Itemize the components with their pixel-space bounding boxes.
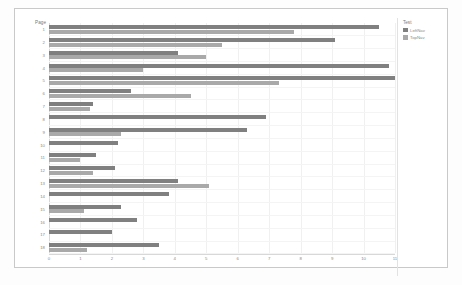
legend-swatch-icon [403, 28, 408, 33]
plot-area: 123456789101112131415161718 012345678910… [49, 23, 395, 253]
bar-leftnav[interactable] [49, 25, 379, 29]
bar-leftnav[interactable] [49, 102, 93, 106]
bar-leftnav[interactable] [49, 38, 335, 42]
x-tick-label: 4 [170, 256, 180, 261]
x-tick-label: 3 [138, 256, 148, 261]
bar-topnav[interactable] [49, 209, 84, 213]
y-tick-label: 15 [29, 207, 45, 212]
bar-topnav[interactable] [49, 30, 294, 34]
y-tick-label: 10 [29, 143, 45, 148]
y-tick-label: 13 [29, 181, 45, 186]
y-tick-label: 16 [29, 220, 45, 225]
bar-row: 8 [49, 113, 395, 126]
x-tick-label: 7 [264, 256, 274, 261]
x-tick-label: 9 [327, 256, 337, 261]
x-tick-label: 10 [359, 256, 369, 261]
bar-row: 4 [49, 62, 395, 75]
bar-topnav[interactable] [49, 248, 87, 252]
bar-topnav[interactable] [49, 43, 222, 47]
y-tick-label: 12 [29, 168, 45, 173]
bar-rows: 123456789101112131415161718 [49, 23, 395, 253]
legend-divider [397, 18, 398, 276]
bar-row: 12 [49, 164, 395, 177]
x-tick-label: 2 [107, 256, 117, 261]
bar-leftnav[interactable] [49, 218, 137, 222]
bar-topnav[interactable] [49, 55, 206, 59]
y-tick-label: 5 [29, 78, 45, 83]
y-tick-label: 18 [29, 245, 45, 250]
bar-leftnav[interactable] [49, 141, 118, 145]
bar-row: 2 [49, 36, 395, 49]
bar-row: 18 [49, 241, 395, 254]
legend-item-label: LeftNav [410, 28, 425, 33]
legend-title: Test [403, 20, 455, 25]
bar-leftnav[interactable] [49, 205, 121, 209]
screenshot-root: Page 123456789101112131415161718 0123456… [0, 0, 462, 285]
bar-row: 9 [49, 126, 395, 139]
bar-topnav[interactable] [49, 81, 279, 85]
bar-row: 1 [49, 23, 395, 36]
bar-row: 3 [49, 49, 395, 62]
y-tick-label: 1 [29, 27, 45, 32]
bar-leftnav[interactable] [49, 192, 169, 196]
y-tick-label: 2 [29, 40, 45, 45]
legend-item[interactable]: LeftNav [403, 28, 455, 33]
bar-topnav[interactable] [49, 107, 90, 111]
y-tick-label: 8 [29, 117, 45, 122]
bar-row: 14 [49, 190, 395, 203]
legend-swatch-icon [403, 35, 408, 40]
bar-row: 16 [49, 216, 395, 229]
bar-leftnav[interactable] [49, 153, 96, 157]
bar-leftnav[interactable] [49, 76, 395, 80]
legend-item[interactable]: TopNav [403, 35, 455, 40]
x-tick-label: 11 [390, 256, 400, 261]
gridline-vertical [395, 23, 396, 253]
bar-row: 5 [49, 74, 395, 87]
bar-topnav[interactable] [49, 184, 209, 188]
bar-topnav[interactable] [49, 158, 80, 162]
bar-leftnav[interactable] [49, 243, 159, 247]
y-tick-label: 7 [29, 104, 45, 109]
bar-row: 6 [49, 87, 395, 100]
bar-topnav[interactable] [49, 171, 93, 175]
y-tick-label: 11 [29, 155, 45, 160]
bar-topnav[interactable] [49, 68, 143, 72]
bar-leftnav[interactable] [49, 230, 112, 234]
x-tick-label: 0 [44, 256, 54, 261]
bar-topnav[interactable] [49, 132, 121, 136]
x-tick-label: 8 [296, 256, 306, 261]
y-tick-label: 4 [29, 66, 45, 71]
bar-leftnav[interactable] [49, 51, 178, 55]
bar-leftnav[interactable] [49, 166, 115, 170]
bar-row: 11 [49, 151, 395, 164]
y-tick-label: 17 [29, 232, 45, 237]
bar-row: 10 [49, 139, 395, 152]
legend-items: LeftNavTopNav [403, 28, 455, 41]
gridline-horizontal [49, 253, 395, 254]
bar-row: 17 [49, 228, 395, 241]
chart-frame: Page 123456789101112131415161718 0123456… [14, 8, 448, 268]
bar-row: 7 [49, 100, 395, 113]
bar-leftnav[interactable] [49, 89, 131, 93]
x-tick-label: 1 [75, 256, 85, 261]
bar-leftnav[interactable] [49, 115, 266, 119]
y-axis-title: Page [35, 20, 46, 25]
bar-leftnav[interactable] [49, 179, 178, 183]
bar-leftnav[interactable] [49, 128, 247, 132]
y-tick-label: 6 [29, 91, 45, 96]
legend-item-label: TopNav [410, 35, 425, 40]
bar-leftnav[interactable] [49, 64, 389, 68]
x-tick-label: 6 [233, 256, 243, 261]
y-tick-label: 9 [29, 130, 45, 135]
bar-row: 13 [49, 177, 395, 190]
y-tick-label: 14 [29, 194, 45, 199]
chart-legend: Test LeftNavTopNav [403, 20, 455, 43]
bar-row: 15 [49, 203, 395, 216]
y-tick-label: 3 [29, 53, 45, 58]
bar-topnav[interactable] [49, 94, 191, 98]
x-tick-label: 5 [201, 256, 211, 261]
